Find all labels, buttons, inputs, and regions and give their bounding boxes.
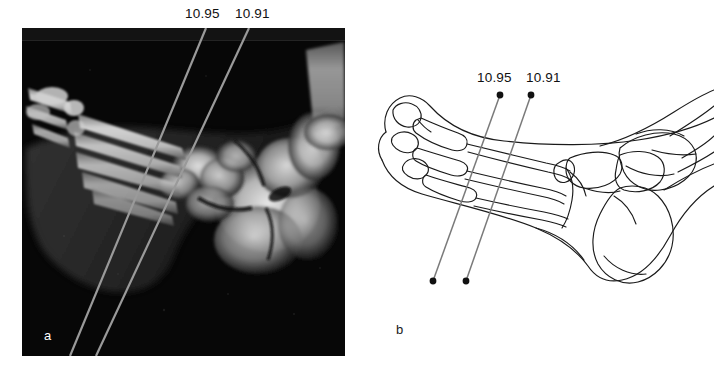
panel-letter-a: a xyxy=(44,328,51,343)
foot-line-drawing xyxy=(352,0,714,370)
outline-toe-tip xyxy=(379,132,386,160)
bone-navicular xyxy=(554,160,575,183)
diagram-measure-line-1091 xyxy=(466,95,531,281)
panel-a-radiograph: 10.95 10.91 xyxy=(0,0,352,370)
figure-root: 10.95 10.91 xyxy=(0,0,714,370)
diagram-dot-1091-bottom xyxy=(463,278,470,285)
panel-b-line-drawing: 10.95 10.91 b xyxy=(352,0,714,370)
xray-image: a xyxy=(22,28,345,356)
bone-calcaneus-sustentaculum xyxy=(614,196,636,224)
diagram-dot-1095-bottom xyxy=(430,278,437,285)
outline-heel-sweep xyxy=(536,228,584,260)
bone-hallux-distal xyxy=(393,103,421,127)
bone-achilles-line xyxy=(664,164,714,190)
outline-dorsum xyxy=(385,96,714,145)
diagram-measure-line-1095 xyxy=(433,95,500,281)
xray-graphic xyxy=(22,28,345,356)
bone-calcaneus xyxy=(593,186,673,283)
bone-calcaneus-tuberosity xyxy=(604,256,646,274)
bone-metatarsal-2b xyxy=(465,179,564,204)
bone-toe2-proximal xyxy=(413,148,468,176)
bone-talus-neck xyxy=(626,166,674,176)
bone-toe3-proximal xyxy=(423,175,477,202)
label-a-line-1095: 10.95 xyxy=(185,6,220,21)
diagram-dot-1091-top xyxy=(528,92,535,99)
diagram-dot-1095-top xyxy=(497,92,504,99)
label-a-line-1091: 10.91 xyxy=(235,6,270,21)
